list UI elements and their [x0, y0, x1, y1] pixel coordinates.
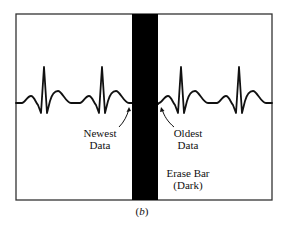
sweep-display-diagram: Newest Data Oldest Data Erase Bar (Dark)… [0, 0, 284, 226]
diagram-canvas [0, 0, 284, 226]
ecg-trace-newest [16, 67, 132, 113]
oldest-data-arrow-icon [162, 109, 174, 127]
oldest-data-label: Oldest Data [166, 127, 210, 151]
erase-bar-label: Erase Bar (Dark) [160, 167, 216, 191]
erase-bar [132, 14, 158, 200]
oldest-data-label-line2: Data [166, 139, 210, 151]
figure-caption: (b) [130, 205, 154, 217]
erase-bar-label-line2: (Dark) [160, 179, 216, 191]
newest-data-label: Newest Data [76, 127, 124, 151]
oldest-data-label-line1: Oldest [166, 127, 210, 139]
newest-data-label-line1: Newest [76, 127, 124, 139]
oldest-data-arrowhead-icon [160, 107, 165, 112]
caption-close-paren: ) [145, 205, 149, 217]
erase-bar-label-line1: Erase Bar [160, 167, 216, 179]
ecg-trace-oldest [158, 67, 272, 113]
newest-data-arrowhead-icon [127, 107, 132, 112]
newest-data-label-line2: Data [76, 139, 124, 151]
